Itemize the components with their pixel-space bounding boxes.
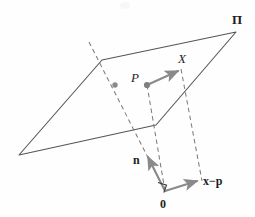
plane-label: Π	[232, 13, 242, 26]
plane-outline	[19, 32, 236, 155]
point-X-label: X	[178, 52, 186, 65]
vector-P-to-X	[144, 71, 178, 88]
origin-label: 0	[160, 198, 166, 210]
plane-parallelogram	[19, 32, 236, 155]
point-P-dot	[144, 82, 150, 88]
vector-P-to-X-shaft	[147, 71, 178, 85]
dashed-line-through-X	[181, 69, 202, 181]
point-P-label: P	[131, 71, 139, 84]
difference-vector-label: x−p	[203, 175, 223, 187]
normal-vector-label: n	[133, 154, 140, 166]
geometry-figure: Π X P n x−p 0	[0, 0, 255, 217]
plane-marker-dot	[112, 82, 117, 87]
vector-x-minus-p-shaft	[165, 181, 197, 191]
vector-x-minus-p	[165, 181, 197, 191]
